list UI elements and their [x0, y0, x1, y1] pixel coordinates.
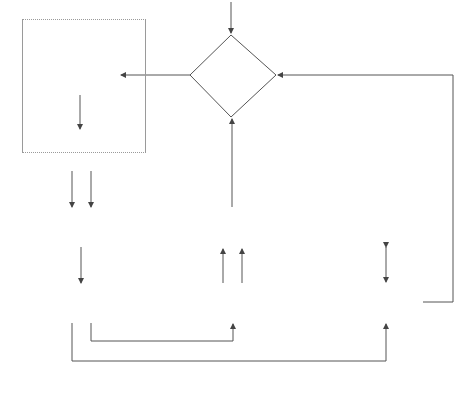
group-system-frontend-frame — [22, 19, 146, 152]
